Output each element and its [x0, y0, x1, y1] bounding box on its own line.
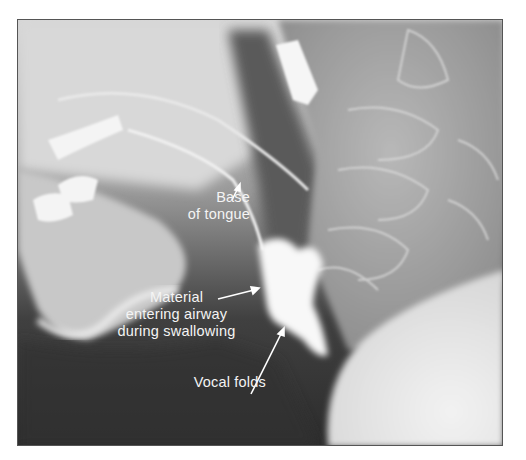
label-vocal-folds: Vocal folds	[146, 374, 266, 391]
xray-image: Base of tongue Material entering airway …	[17, 19, 503, 446]
label-base-of-tongue: Base of tongue	[166, 189, 250, 223]
label-line: during swallowing	[78, 323, 275, 340]
label-line: entering airway	[78, 306, 275, 323]
label-line: Base	[166, 189, 250, 206]
label-line: Material	[78, 289, 275, 306]
label-material-entering-airway: Material entering airway during swallowi…	[78, 289, 275, 340]
label-line: of tongue	[166, 206, 250, 223]
